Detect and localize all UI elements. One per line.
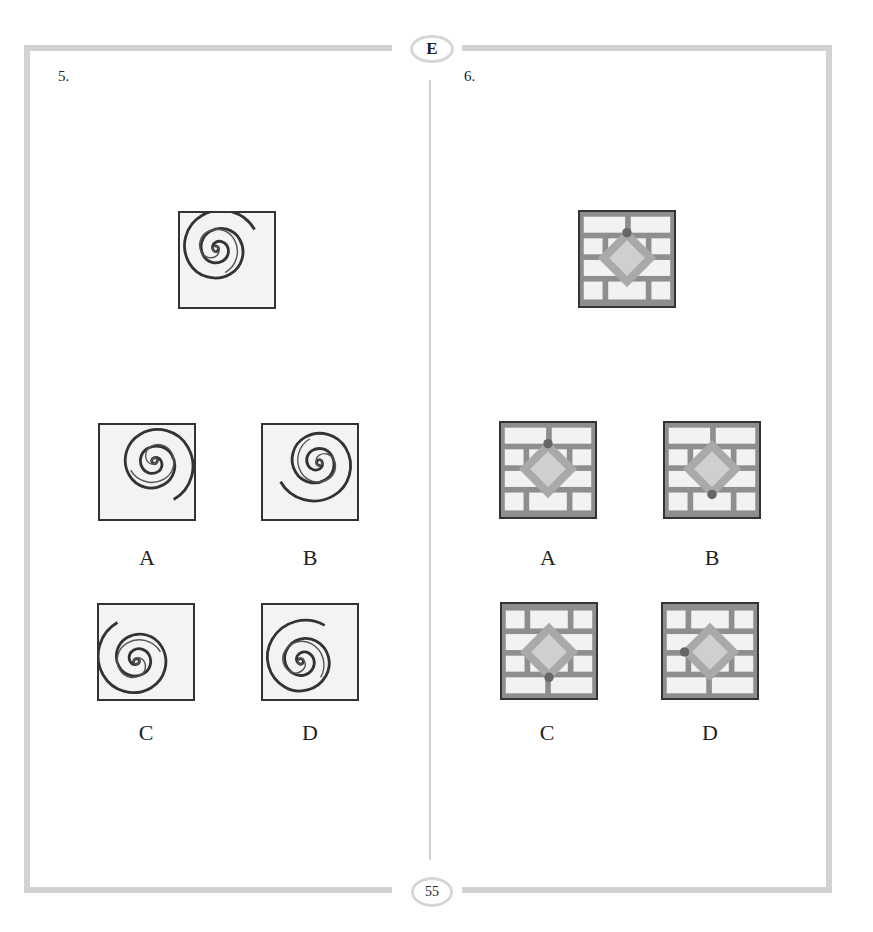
spiral-icon — [180, 213, 274, 307]
q5-option-d-label[interactable]: D — [290, 720, 330, 746]
brick-diamond-icon — [665, 423, 759, 517]
frame-bottom-left — [24, 887, 392, 893]
spiral-icon — [100, 425, 194, 519]
q6-prompt-figure — [578, 210, 676, 308]
q5-option-d-figure[interactable] — [261, 603, 359, 701]
spiral-icon — [99, 605, 193, 699]
q6-option-b-label[interactable]: B — [692, 545, 732, 571]
frame-top-right — [462, 45, 832, 51]
section-badge: E — [410, 35, 454, 63]
q6-option-b-figure[interactable] — [663, 421, 761, 519]
frame-bottom-right — [462, 887, 832, 893]
question-5-number: 5. — [58, 68, 69, 85]
brick-diamond-icon — [502, 604, 596, 698]
q5-option-c-figure[interactable] — [97, 603, 195, 701]
page-number: 55 — [411, 877, 453, 907]
frame-right — [826, 45, 832, 893]
q6-option-a-figure[interactable] — [499, 421, 597, 519]
brick-diamond-icon — [580, 212, 674, 306]
question-6-number: 6. — [464, 68, 475, 85]
q6-option-d-label[interactable]: D — [690, 720, 730, 746]
q6-option-c-figure[interactable] — [500, 602, 598, 700]
brick-diamond-icon — [501, 423, 595, 517]
q5-option-c-label[interactable]: C — [126, 720, 166, 746]
frame-left — [24, 45, 30, 893]
q5-option-b-label[interactable]: B — [290, 545, 330, 571]
q5-option-a-figure[interactable] — [98, 423, 196, 521]
q6-option-a-label[interactable]: A — [528, 545, 568, 571]
q6-option-c-label[interactable]: C — [527, 720, 567, 746]
q5-prompt-figure — [178, 211, 276, 309]
q5-option-b-figure[interactable] — [261, 423, 359, 521]
brick-diamond-icon — [663, 604, 757, 698]
spiral-icon — [263, 425, 357, 519]
frame-top-left — [24, 45, 392, 51]
column-divider — [429, 80, 431, 860]
q6-option-d-figure[interactable] — [661, 602, 759, 700]
spiral-icon — [263, 605, 357, 699]
q5-option-a-label[interactable]: A — [127, 545, 167, 571]
